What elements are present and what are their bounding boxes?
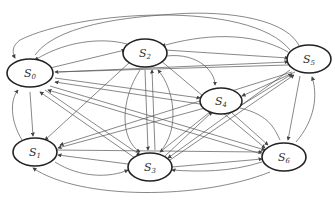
node-s6: S6 <box>262 143 306 171</box>
node-s4: S4 <box>200 88 242 114</box>
node-s0: S0 <box>7 59 53 87</box>
node-s5: S5 <box>287 45 331 73</box>
nodes: S0 S2 S5 S4 S1 S3 S6 <box>7 39 331 181</box>
state-diagram: S0 S2 S5 S4 S1 S3 S6 <box>0 0 335 209</box>
node-s2: S2 <box>123 39 167 67</box>
node-s1: S1 <box>13 138 57 166</box>
node-s3: S3 <box>128 153 172 181</box>
